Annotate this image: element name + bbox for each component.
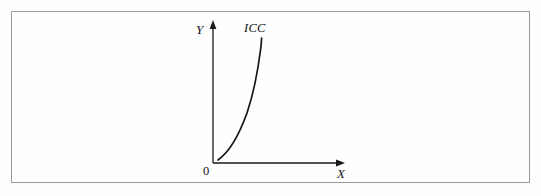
icc-curve [218,38,262,160]
x-axis-label: X [337,166,345,182]
origin-label: 0 [203,164,209,179]
y-axis-label: Y [196,22,203,38]
plot-area [0,0,541,196]
y-axis-arrow-icon [210,20,217,29]
icc-curve-label: ICC [244,21,266,36]
figure-screenshot: Y X 0 ICC [0,0,541,196]
